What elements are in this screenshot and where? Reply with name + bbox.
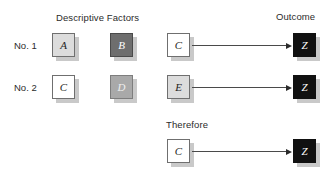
node-row1-z[interactable]: Z [293,33,316,57]
node-face: E [167,75,190,99]
node-label: Z [301,146,307,157]
node-face: C [52,75,75,99]
node-face: Z [293,75,316,99]
node-conclusion-z[interactable]: Z [293,139,316,163]
node-label: C [175,40,182,51]
node-row1-c[interactable]: C [167,33,190,57]
arrow-head [286,85,292,91]
row-label-no2: No. 2 [14,82,37,93]
node-row2-c[interactable]: C [52,75,75,99]
node-label: A [60,40,67,51]
arrow-shaft [192,151,286,152]
heading-outcome: Outcome [276,11,315,22]
node-label: C [175,146,182,157]
node-face: B [110,33,133,57]
heading-descriptive-factors: Descriptive Factors [56,12,139,23]
diagram-canvas: Descriptive Factors Outcome Therefore No… [0,0,336,187]
node-label: D [118,82,126,93]
arrow-head [286,43,292,49]
node-face: A [52,33,75,57]
node-row2-z[interactable]: Z [293,75,316,99]
node-label: C [60,82,67,93]
row-label-no1: No. 1 [14,40,37,51]
node-row2-d[interactable]: D [110,75,133,99]
node-row2-e[interactable]: E [167,75,190,99]
node-row1-b[interactable]: B [110,33,133,57]
node-label: Z [301,82,307,93]
node-face: Z [293,139,316,163]
arrow-conclusion [192,147,292,156]
arrow-row2 [192,83,292,92]
node-face: Z [293,33,316,57]
node-row1-a[interactable]: A [52,33,75,57]
arrow-row1 [192,41,292,50]
heading-therefore: Therefore [166,119,208,130]
arrow-shaft [192,87,286,88]
node-face: C [167,139,190,163]
arrow-shaft [192,45,286,46]
arrow-head [286,149,292,155]
node-face: D [110,75,133,99]
node-label: E [175,82,182,93]
node-conclusion-c[interactable]: C [167,139,190,163]
node-label: B [118,40,125,51]
node-face: C [167,33,190,57]
node-label: Z [301,40,307,51]
